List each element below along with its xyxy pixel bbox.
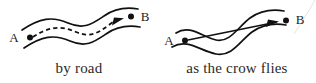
caption-crow-flies: as the crow flies (158, 58, 316, 78)
node-a-dot-icon (27, 35, 33, 41)
node-a-label: A (9, 30, 19, 45)
node-b-label: B (141, 9, 150, 24)
caption-by-road: by road (0, 58, 158, 78)
crow-flies-figure: A B (158, 0, 316, 60)
node-a-label: A (164, 33, 174, 48)
route-straight-path-icon (188, 22, 277, 40)
route-by-road-path-icon (33, 18, 121, 37)
distance-comparison-diagram: A B by road A B as the crow flies (0, 0, 316, 83)
node-b-dot-icon (128, 14, 134, 20)
node-b-dot-icon (283, 18, 289, 24)
panel-crow-flies: A B as the crow flies (158, 0, 316, 83)
panel-by-road: A B by road (0, 0, 158, 83)
by-road-figure: A B (0, 0, 158, 60)
route-arrowhead-icon (266, 20, 279, 27)
road-lower-edge-icon (24, 26, 140, 48)
node-a-dot-icon (182, 38, 188, 44)
node-b-label: B (296, 12, 305, 27)
route-arrowhead-icon (112, 18, 124, 26)
